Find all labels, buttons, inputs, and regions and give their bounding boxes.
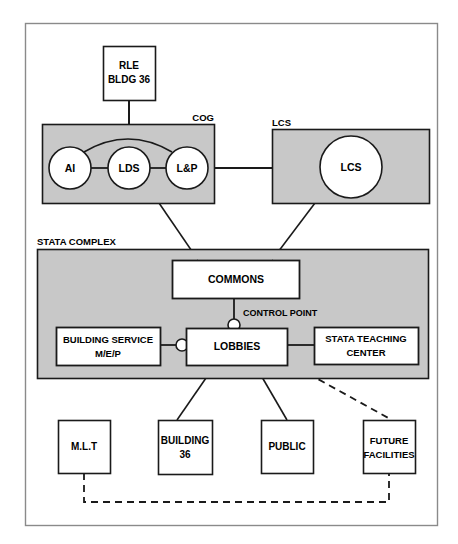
node-ai-label: AI bbox=[65, 162, 76, 174]
diagram-canvas: FUTURE FACILITIES --> COG AI LDS L&P LCS… bbox=[0, 0, 458, 544]
node-lds-label: LDS bbox=[119, 162, 140, 174]
group-label-lcs: LCS bbox=[272, 117, 291, 128]
node-future-facilities-line2: FACILITIES bbox=[363, 449, 414, 460]
node-future-facilities-line1: FUTURE bbox=[370, 435, 409, 446]
facility-relationship-diagram: FUTURE FACILITIES --> COG AI LDS L&P LCS… bbox=[0, 0, 458, 544]
node-lp-label: L&P bbox=[177, 162, 198, 174]
node-lcs-label: LCS bbox=[341, 161, 362, 173]
node-building-service-line2: M/E/P bbox=[95, 348, 122, 359]
node-future-facilities[interactable] bbox=[364, 421, 416, 474]
node-building-36-line2: 36 bbox=[179, 449, 191, 460]
node-stata-teaching-center-line1: STATA TEACHING bbox=[325, 333, 406, 344]
node-public-label: PUBLIC bbox=[268, 441, 305, 452]
node-building-36-line1: BUILDING bbox=[161, 435, 210, 446]
node-mlt-label: M.L.T bbox=[71, 441, 97, 452]
node-building-service-line1: BUILDING SERVICE bbox=[63, 334, 153, 345]
node-rle-bldg36-line2: BLDG 36 bbox=[108, 74, 151, 85]
annotation-control-point: CONTROL POINT bbox=[243, 308, 318, 318]
group-label-stata-complex: STATA COMPLEX bbox=[37, 236, 116, 247]
node-commons-label: COMMONS bbox=[208, 273, 264, 285]
node-lobbies-label: LOBBIES bbox=[214, 340, 261, 352]
node-building-36[interactable] bbox=[159, 421, 213, 475]
group-label-cog: COG bbox=[192, 112, 214, 123]
node-rle-bldg36-line1: RLE bbox=[119, 60, 139, 71]
node-stata-teaching-center-line2: CENTER bbox=[346, 347, 385, 358]
